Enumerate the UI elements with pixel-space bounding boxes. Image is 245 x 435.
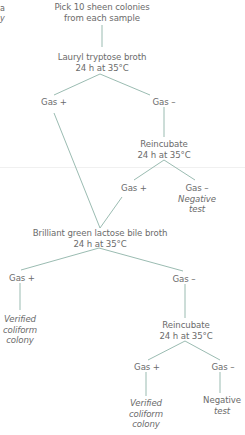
node-text: colony bbox=[127, 419, 165, 430]
node-text: Verified bbox=[127, 398, 165, 409]
node-text: Gas – bbox=[175, 183, 219, 194]
connector-reinc2-gasneg bbox=[185, 341, 220, 360]
node-text: test bbox=[175, 204, 219, 215]
node-verified-coliform-1: Verified coliform colony bbox=[2, 314, 38, 346]
node-text: 24 h at 35°C bbox=[124, 150, 204, 161]
fragment-line: a bbox=[0, 4, 5, 14]
node-brilliant-green-broth: Brilliant green lactose bile broth 24 h … bbox=[20, 228, 180, 249]
connector-brilliant-gaspos bbox=[21, 248, 99, 270]
node-text: Lauryl tryptose broth bbox=[52, 52, 152, 63]
node-text: from each sample bbox=[52, 13, 152, 24]
node-reinc1-gas-positive: Gas + bbox=[114, 183, 154, 194]
connector-reinc2-gaspos bbox=[148, 341, 185, 360]
node-reinc2-gas-negative: Gas – bbox=[204, 362, 242, 373]
node-reinc2-gas-positive: Gas + bbox=[128, 362, 166, 373]
connector-reinc1-gaspos bbox=[134, 160, 164, 180]
node-text: Brilliant green lactose bile broth bbox=[20, 228, 180, 239]
connector-lauryl-gasneg bbox=[100, 74, 150, 95]
node-brilliant-gas-positive: Gas + bbox=[2, 273, 42, 284]
node-text: coliform bbox=[127, 409, 165, 420]
node-text: test bbox=[200, 406, 244, 417]
connector-lauryl-gaspos-brilliant bbox=[54, 113, 100, 228]
clipped-edge-text: a y bbox=[0, 4, 5, 24]
node-text: 24 h at 35°C bbox=[148, 331, 224, 342]
node-text: 24 h at 35°C bbox=[52, 63, 152, 74]
node-text: Reincubate bbox=[124, 139, 204, 150]
node-verified-coliform-2: Verified coliform colony bbox=[127, 398, 165, 430]
node-gas-positive: Gas + bbox=[34, 97, 74, 108]
connector-reinc1-gasneg bbox=[164, 160, 195, 180]
node-start: Pick 10 sheen colonies from each sample bbox=[52, 2, 152, 23]
connector-reinc1-gaspos-brilliant bbox=[100, 197, 122, 228]
node-text: Verified bbox=[2, 314, 38, 325]
node-lauryl-tryptose-broth: Lauryl tryptose broth 24 h at 35°C bbox=[52, 52, 152, 73]
node-text: Negative bbox=[175, 194, 219, 205]
connector-lauryl-gaspos bbox=[54, 74, 100, 95]
node-negative-test-2: Negative test bbox=[200, 395, 244, 416]
node-text: Reincubate bbox=[148, 320, 224, 331]
node-reincubate-1: Reincubate 24 h at 35°C bbox=[124, 139, 204, 160]
connector-brilliant-gasneg bbox=[99, 248, 183, 271]
node-text: Pick 10 sheen colonies bbox=[52, 2, 152, 13]
fragment-line: y bbox=[0, 14, 5, 24]
node-text: coliform bbox=[2, 325, 38, 336]
node-text: colony bbox=[2, 335, 38, 346]
node-gas-negative: Gas – bbox=[146, 97, 182, 108]
node-brilliant-gas-negative: Gas – bbox=[166, 274, 202, 285]
node-reinc1-gas-negative: Gas – Negative test bbox=[175, 183, 219, 215]
node-text: Negative bbox=[200, 395, 244, 406]
node-reincubate-2: Reincubate 24 h at 35°C bbox=[148, 320, 224, 341]
node-text: 24 h at 35°C bbox=[20, 239, 180, 250]
